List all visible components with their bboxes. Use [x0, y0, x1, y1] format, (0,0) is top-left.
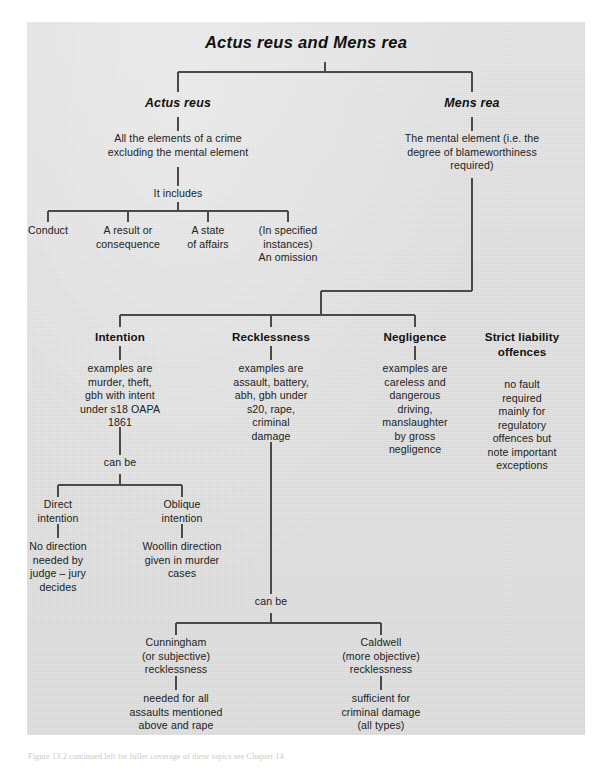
- branch-heading-mens-rea: Mens rea: [392, 96, 552, 112]
- fault-type-strict-liability-heading: Strict liability offences: [466, 330, 578, 360]
- recklessness-caldwell-heading: Caldwell (more objective) recklessness: [317, 636, 445, 677]
- recklessness-connector-label: can be: [221, 595, 321, 609]
- actus-reus-element-conduct: Conduct: [8, 224, 88, 238]
- fault-type-recklessness-examples: examples are assault, battery, abh, gbh …: [206, 362, 336, 443]
- fault-type-recklessness-heading: Recklessness: [206, 330, 336, 345]
- actus-reus-element-result: A result or consequence: [80, 224, 176, 251]
- mens-rea-definition: The mental element (i.e. the degree of b…: [372, 132, 572, 173]
- recklessness-caldwell-detail: sufficient for criminal damage (all type…: [316, 692, 446, 733]
- figure-page: Actus reus and Mens rea Actus reus All t…: [0, 0, 614, 769]
- actus-reus-definition: All the elements of a crime excluding th…: [78, 132, 278, 159]
- recklessness-cunningham-detail: needed for all assaults mentioned above …: [106, 692, 246, 733]
- fault-type-negligence-examples: examples are careless and dangerous driv…: [355, 362, 475, 457]
- actus-reus-element-omission: (In specified instances) An omission: [240, 224, 336, 265]
- recklessness-cunningham-heading: Cunningham (or subjective) recklessness: [112, 636, 240, 677]
- intention-oblique-heading: Oblique intention: [132, 498, 232, 525]
- fault-type-negligence-heading: Negligence: [355, 330, 475, 345]
- fault-type-strict-liability-examples: no fault required mainly for regulatory …: [462, 378, 582, 473]
- fault-type-intention-heading: Intention: [60, 330, 180, 345]
- intention-direct-detail: No direction needed by judge – jury deci…: [2, 540, 114, 594]
- actus-reus-element-state-of-affairs: A state of affairs: [166, 224, 250, 251]
- branch-heading-actus-reus: Actus reus: [98, 96, 258, 112]
- intention-connector-label: can be: [70, 456, 170, 470]
- figure-caption: Figure 13.2 continued left for fuller co…: [28, 752, 588, 761]
- fault-type-intention-examples: examples are murder, theft, gbh with int…: [55, 362, 185, 430]
- intention-direct-heading: Direct intention: [8, 498, 108, 525]
- actus-reus-connector-label: It includes: [128, 187, 228, 201]
- figure-title: Actus reus and Mens rea: [27, 32, 585, 53]
- intention-oblique-detail: Woollin direction given in murder cases: [118, 540, 246, 581]
